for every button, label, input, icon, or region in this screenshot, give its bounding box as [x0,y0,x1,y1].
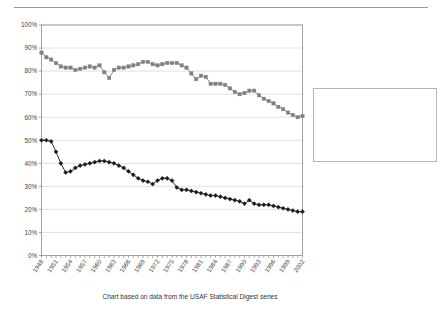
data-point-marker [74,68,77,71]
data-point-marker [45,56,48,59]
x-axis-tick-label: 1951 [45,258,59,274]
data-point-marker [204,75,207,78]
data-point-marker [132,64,135,67]
data-point-marker [233,90,236,93]
data-point-marker [194,77,197,80]
y-axis-tick-label: 50% [24,137,37,144]
data-point-marker [59,65,62,68]
data-point-marker [151,62,154,65]
y-axis-tick-label: 80% [24,67,37,74]
data-point-marker [301,114,304,117]
data-point-marker [248,89,251,92]
data-point-marker [165,61,168,64]
data-point-marker [78,67,81,70]
data-point-marker [281,107,284,110]
data-point-marker [64,170,68,174]
x-axis-labels: 1948195119541957196019631966196919721975… [31,258,306,274]
x-axis-tick-label: 1963 [103,258,117,274]
data-point-marker [69,66,72,69]
data-point-marker [40,51,43,54]
data-point-marker [59,161,63,165]
data-point-marker [223,196,227,200]
x-axis-tick-label: 2002 [292,258,306,274]
data-point-marker [185,66,188,69]
data-point-marker [276,205,280,209]
data-point-marker [238,92,241,95]
x-axis-tick-label: 1966 [118,258,132,274]
data-point-marker [286,207,290,211]
x-axis-tick-label: 1990 [234,258,248,274]
data-point-marker [156,64,159,67]
data-point-marker [88,65,91,68]
data-point-marker [175,61,178,64]
data-point-marker [219,82,222,85]
data-point-marker [296,116,299,119]
data-point-marker [107,76,110,79]
data-point-marker [93,66,96,69]
y-axis-tick-label: 20% [24,206,37,213]
data-point-marker [98,64,101,67]
data-point-marker [49,58,52,61]
data-point-marker [112,68,115,71]
data-point-marker [117,164,121,168]
data-point-marker [165,176,169,180]
x-axis-tick-label: 1996 [263,258,277,274]
y-axis-tick-label: 40% [24,160,37,167]
x-axis-tick-label: 1993 [248,258,262,274]
data-point-marker [209,193,213,197]
gridlines [42,25,303,232]
data-point-marker [194,190,198,194]
data-point-marker [184,188,188,192]
x-axis-tick-label: 1954 [60,258,74,274]
data-point-marker [238,199,242,203]
y-axis-tick-label: 0% [28,252,38,259]
data-point-marker [190,72,193,75]
y-axis-tick-label: 90% [24,44,37,51]
data-point-marker [122,66,125,69]
data-point-marker [243,91,246,94]
y-axis-tick-label: 10% [24,229,37,236]
data-point-marker [103,71,106,74]
x-axis-tick-label: 1987 [219,258,233,274]
chart-series-2 [39,138,304,214]
chart-series-1 [40,51,304,119]
x-axis-tick-label: 1981 [190,258,204,274]
data-point-marker [44,138,48,142]
data-point-marker [64,66,67,69]
data-point-marker [228,87,231,90]
data-point-marker [146,180,150,184]
chart-caption: Chart based on data from the USAF Statis… [102,293,278,301]
x-axis-tick-label: 1999 [277,258,291,274]
x-axis-tick-label: 1957 [74,258,88,274]
data-point-marker [54,150,58,154]
data-point-marker [136,62,139,65]
data-point-marker [112,161,116,165]
data-point-marker [78,164,82,168]
y-axis-tick-label: 60% [24,114,37,121]
data-point-marker [141,178,145,182]
data-point-marker [223,83,226,86]
data-point-marker [300,210,304,214]
data-point-marker [180,188,184,192]
series-line [42,140,303,211]
data-point-marker [199,191,203,195]
data-point-marker [286,111,289,114]
data-point-marker [272,102,275,105]
data-point-marker [214,82,217,85]
data-point-marker [141,60,144,63]
data-point-marker [146,60,149,63]
data-point-marker [267,203,271,207]
data-point-marker [97,159,101,163]
x-axis-tick-label: 1948 [31,258,45,274]
data-point-marker [271,204,275,208]
x-axis-tick-label: 1969 [132,258,146,274]
y-axis-tick-label: 100% [21,21,38,28]
data-point-marker [88,161,92,165]
x-axis-tick-label: 1984 [205,258,219,274]
x-axis-tick-label: 1960 [89,258,103,274]
x-axis-tick-label: 1975 [161,258,175,274]
data-point-marker [252,89,255,92]
data-point-marker [257,94,260,97]
data-point-marker [127,65,130,68]
chart-legend [313,88,437,162]
